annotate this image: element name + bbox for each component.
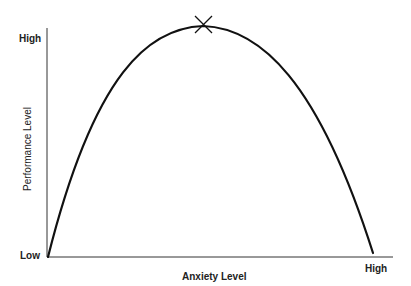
- peak-x-marker: [195, 16, 212, 33]
- chart-canvas: [0, 0, 411, 286]
- x-axis-title: Anxiety Level: [182, 272, 246, 282]
- x-axis-high-label: High: [365, 264, 387, 274]
- y-axis-title: Performance Level: [23, 104, 33, 194]
- y-axis-high-label: High: [19, 34, 41, 44]
- y-axis-low-label: Low: [20, 251, 40, 261]
- inverted-u-curve: [48, 26, 373, 257]
